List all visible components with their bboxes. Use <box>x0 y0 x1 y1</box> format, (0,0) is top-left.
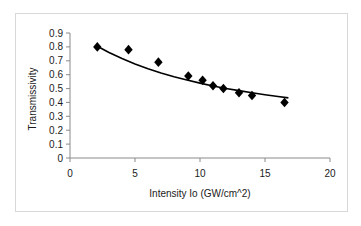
x-tick-label: 20 <box>324 168 336 179</box>
data-point <box>280 98 288 108</box>
chart-figure: 0.9 0.8 0.7 0.6 0.5 0.4 0.3 0.2 0.1 0 0 … <box>0 0 361 226</box>
y-tick-label: 0.1 <box>49 139 63 150</box>
data-point <box>124 45 132 55</box>
chart-plot-area: 0.9 0.8 0.7 0.6 0.5 0.4 0.3 0.2 0.1 0 0 … <box>0 0 361 226</box>
data-point-group <box>93 42 289 107</box>
y-tick-label: 0.6 <box>49 69 63 80</box>
y-tick-label: 0.5 <box>49 83 63 94</box>
x-tick-label: 5 <box>132 168 138 179</box>
y-axis-title: Transmissivity <box>27 68 38 131</box>
x-tick-label: 10 <box>194 168 206 179</box>
data-point <box>154 57 162 67</box>
x-tick-label: 0 <box>67 168 73 179</box>
data-point <box>209 81 217 91</box>
y-tick-label: 0 <box>57 153 63 164</box>
x-tick-label: 15 <box>259 168 271 179</box>
x-axis-ticks <box>70 158 330 162</box>
y-axis-ticks <box>66 33 70 158</box>
y-tick-label: 0.3 <box>49 111 63 122</box>
data-point <box>219 84 227 94</box>
y-tick-label: 0.7 <box>49 55 63 66</box>
data-point <box>93 42 101 52</box>
x-axis-title: Intensity Io (GW/cm^2) <box>149 188 250 199</box>
y-tick-label: 0.4 <box>49 97 63 108</box>
y-tick-label: 0.8 <box>49 41 63 52</box>
y-tick-label: 0.2 <box>49 125 63 136</box>
y-tick-label: 0.9 <box>49 28 63 39</box>
fit-curve <box>97 46 288 98</box>
